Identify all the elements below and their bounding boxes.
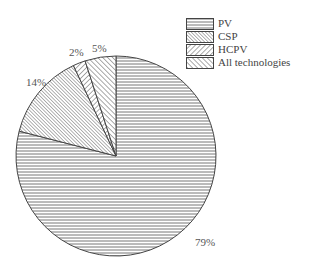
legend-item-hcpv: HCPV — [186, 43, 290, 56]
csp-swatch-icon — [186, 31, 214, 43]
data-label-csp: 14% — [26, 76, 46, 88]
legend-item-all-technologies: All technologies — [186, 56, 290, 69]
legend-label: PV — [218, 17, 232, 30]
data-label-pv: 79% — [195, 236, 215, 248]
hcpv-swatch-icon — [186, 44, 214, 56]
legend: PV CSP HCPV All technologies — [186, 17, 290, 69]
all-technologies-swatch-icon — [186, 57, 214, 69]
legend-label: All technologies — [218, 56, 290, 69]
data-label-hcpv: 2% — [69, 46, 84, 58]
legend-item-pv: PV — [186, 17, 290, 30]
pv-swatch-icon — [186, 18, 214, 30]
legend-label: HCPV — [218, 43, 247, 56]
data-label-all-technologies: 5% — [92, 42, 107, 54]
legend-label: CSP — [218, 30, 238, 43]
legend-item-csp: CSP — [186, 30, 290, 43]
